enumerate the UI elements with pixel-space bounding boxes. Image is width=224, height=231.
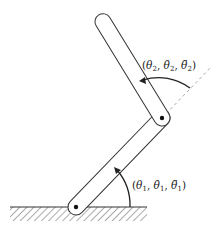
link1-extension-dashed-line — [162, 66, 212, 118]
theta1-arc-arrow — [117, 170, 130, 207]
manipulator-diagram: (θ2, θ̇2, θ̈2) (θ1, θ̇1, θ̈1) — [0, 0, 224, 231]
joint-2-pivot-icon — [160, 116, 164, 120]
joint1-label: (θ1, θ̇1, θ̈1) — [132, 179, 186, 193]
joint2-label: (θ2, θ̇2, θ̈2) — [142, 59, 196, 73]
joint-1-pivot-icon — [74, 205, 78, 209]
